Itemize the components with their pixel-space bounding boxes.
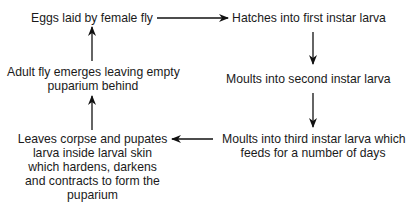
node-pupation-line-5: puparium	[15, 188, 170, 202]
node-second-instar-line: Moults into second instar larva	[226, 72, 381, 86]
node-adult-line-1: Adult fly emerges leaving empty	[7, 65, 179, 79]
node-first-instar: Hatches into first instar larva	[232, 11, 386, 25]
node-pupation-line-1: Leaves corpse and pupates	[15, 132, 170, 146]
node-pupation: Leaves corpse and pupates larva inside l…	[15, 132, 170, 202]
node-eggs: Eggs laid by female fly	[30, 11, 154, 25]
node-third-instar-line-1: Moults into third instar larva which	[222, 132, 404, 146]
node-third-instar-line-2: feeds for a number of days	[222, 146, 404, 160]
node-pupation-line-2: larva inside larval skin	[15, 146, 170, 160]
node-first-instar-line: Hatches into first instar larva	[232, 11, 386, 25]
node-third-instar: Moults into third instar larva which fee…	[222, 132, 404, 160]
node-second-instar: Moults into second instar larva	[226, 72, 381, 86]
node-adult: Adult fly emerges leaving empty puparium…	[7, 65, 179, 93]
node-pupation-line-3: which hardens, darkens	[15, 160, 170, 174]
node-pupation-line-4: and contracts to form the	[15, 174, 170, 188]
node-adult-line-2: puparium behind	[7, 79, 179, 93]
node-eggs-line: Eggs laid by female fly	[30, 11, 154, 25]
